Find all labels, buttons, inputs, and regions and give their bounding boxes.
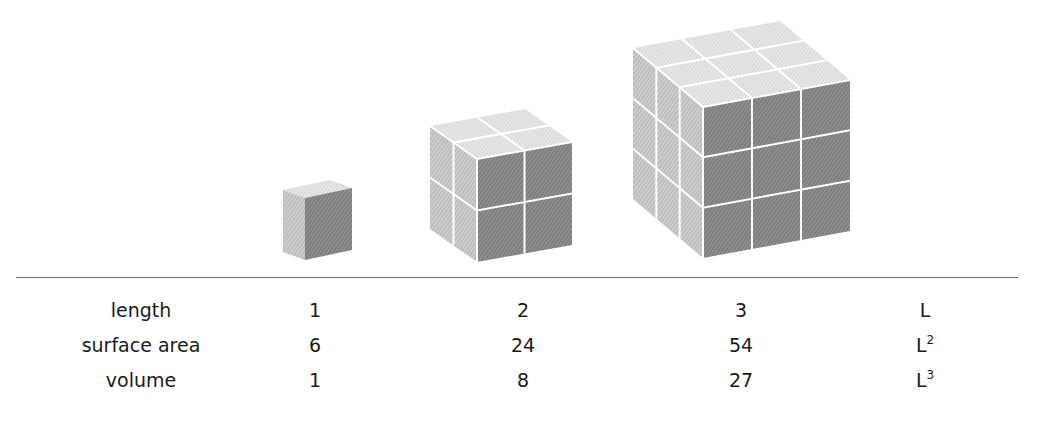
formula-exponent: 3 <box>926 368 934 382</box>
front-face <box>305 188 352 260</box>
value-cell: 8 <box>517 365 529 395</box>
cubes-illustration <box>0 0 1046 270</box>
cube-length-3 <box>633 21 850 258</box>
divider-line <box>16 277 1018 278</box>
table-row-surface-area: surface area 6 24 54 L2 <box>0 330 1046 360</box>
table-row-volume: volume 1 8 27 L3 <box>0 365 1046 395</box>
cube-length-2 <box>430 109 572 262</box>
row-label: length <box>111 295 172 325</box>
formula-exponent: 2 <box>926 333 934 347</box>
formula-base: L <box>920 299 931 321</box>
general-formula: L2 <box>916 330 934 360</box>
row-label: volume <box>106 365 176 395</box>
formula-base: L <box>916 369 927 391</box>
row-label: surface area <box>82 330 201 360</box>
formula-base: L <box>916 334 927 356</box>
value-cell: 1 <box>309 365 321 395</box>
value-cell: 24 <box>511 330 535 360</box>
value-cell: 54 <box>729 330 753 360</box>
general-formula: L <box>920 295 931 325</box>
value-cell: 1 <box>309 295 321 325</box>
general-formula: L3 <box>916 365 934 395</box>
table-row-length: length 1 2 3 L <box>0 295 1046 325</box>
value-cell: 3 <box>735 295 747 325</box>
front-face <box>703 80 850 258</box>
value-cell: 2 <box>517 295 529 325</box>
left-face <box>283 190 305 260</box>
value-cell: 6 <box>309 330 321 360</box>
cube-length-1 <box>283 180 352 260</box>
value-cell: 27 <box>729 365 753 395</box>
